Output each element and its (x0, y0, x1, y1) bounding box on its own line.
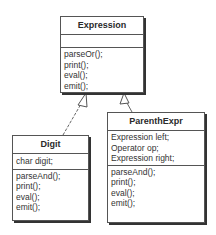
method: emit(); (64, 81, 140, 92)
digit-generalization-line (63, 104, 81, 135)
method: parseOr(); (64, 49, 140, 60)
generalization-arrowhead-icon (78, 93, 87, 107)
method: print(); (64, 60, 140, 71)
attribute: char digit; (16, 156, 85, 167)
attribute: Operator op; (111, 143, 201, 154)
method: eval(); (16, 192, 85, 203)
class-digit: Digit char digit; parseAnd(); print(); e… (12, 135, 89, 221)
method: print(); (111, 177, 201, 188)
method: parseAnd(); (16, 171, 85, 182)
method: parseAnd(); (111, 167, 201, 178)
method: emit(); (16, 202, 85, 213)
methods-section: parseAnd(); print(); eval(); emit(); (108, 166, 204, 210)
attributes-section: char digit; (13, 154, 88, 170)
methods-section: parseAnd(); print(); eval(); emit(); (13, 170, 88, 214)
method: emit(); (111, 198, 201, 209)
class-name: ParenthExpr (108, 113, 204, 131)
method: eval(); (111, 188, 201, 199)
class-expression: Expression parseOr(); print(); eval(); e… (60, 16, 144, 93)
method: eval(); (64, 70, 140, 81)
attributes-section (61, 35, 143, 48)
attribute: Expression left; (111, 132, 201, 143)
methods-section: parseOr(); print(); eval(); emit(); (61, 48, 143, 92)
class-parenthexpr: ParenthExpr Expression left; Operator op… (107, 112, 205, 223)
parenthexpr-generalization-line (127, 103, 132, 112)
attributes-section: Expression left; Operator op; Expression… (108, 131, 204, 166)
attribute: Expression right; (111, 153, 201, 164)
method: print(); (16, 181, 85, 192)
class-name: Digit (13, 136, 88, 154)
generalization-arrowhead-icon (120, 93, 129, 104)
class-name: Expression (61, 17, 143, 35)
